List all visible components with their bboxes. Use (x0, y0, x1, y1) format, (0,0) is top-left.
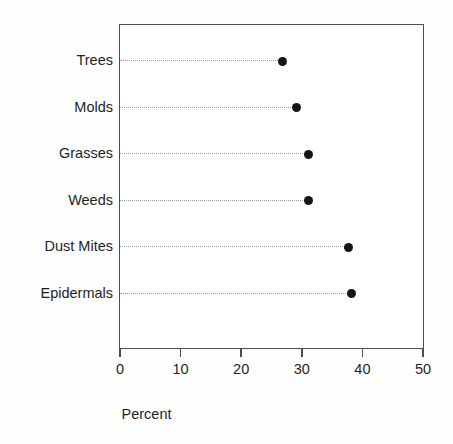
x-axis-tick (119, 349, 121, 357)
x-axis-tick (240, 349, 242, 357)
leader-line (120, 246, 349, 247)
x-axis-tick-label: 40 (354, 362, 370, 377)
leader-line (120, 60, 282, 61)
x-axis-tick (180, 349, 182, 357)
x-axis-tick-label: 20 (233, 362, 249, 377)
x-axis-tick-label: 10 (173, 362, 189, 377)
data-point-dot[interactable] (347, 289, 356, 298)
data-point-dot[interactable] (292, 103, 301, 112)
category-label: Grasses (59, 146, 113, 161)
x-axis-tick (362, 349, 364, 357)
x-axis-title: Percent (0, 406, 453, 422)
data-point-dot[interactable] (304, 196, 313, 205)
x-axis-tick (301, 349, 303, 357)
x-axis-tick-label: 50 (415, 362, 431, 377)
leader-line (120, 153, 309, 154)
x-axis-tick (422, 349, 424, 357)
x-axis-title-text: Percent (122, 406, 172, 422)
category-label: Trees (76, 53, 113, 68)
x-axis-tick-label: 0 (116, 362, 124, 377)
category-label: Dust Mites (45, 239, 114, 254)
leader-line (120, 107, 297, 108)
category-label: Weeds (68, 192, 113, 207)
x-axis-tick-label: 30 (294, 362, 310, 377)
dot-plot-chart: TreesMoldsGrassesWeedsDust MitesEpiderma… (0, 0, 453, 444)
x-axis: 01020304050 (119, 349, 424, 350)
data-point-dot[interactable] (344, 243, 353, 252)
category-label: Molds (74, 100, 113, 115)
data-point-dot[interactable] (304, 150, 313, 159)
data-point-dot[interactable] (278, 57, 287, 66)
category-label: Epidermals (40, 285, 113, 300)
leader-line (120, 293, 352, 294)
plot-area (119, 24, 424, 349)
leader-line (120, 200, 309, 201)
